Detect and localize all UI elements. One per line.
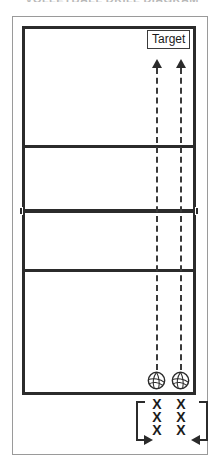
- player-formation: X X X X X X: [136, 401, 208, 447]
- volleyball-icon: [147, 371, 166, 390]
- attack-line-top: [22, 145, 196, 148]
- trajectory-left: [156, 68, 158, 370]
- volleyball-icon: [171, 371, 190, 390]
- target-label: Target: [147, 30, 190, 49]
- queue-left: X X X: [149, 398, 165, 437]
- trajectory-arrowhead-left-icon: [152, 59, 162, 68]
- rotation-path-right: [199, 401, 208, 441]
- diagram-canvas: VOLLEYBALL DRILL DIAGRAM Target X: [0, 0, 224, 464]
- net-line: [20, 209, 198, 213]
- player-mark: X: [149, 424, 165, 437]
- trajectory-right: [180, 68, 182, 370]
- page-header-text: VOLLEYBALL DRILL DIAGRAM: [16, 0, 208, 2]
- player-mark: X: [173, 424, 189, 437]
- net-post-left: [19, 207, 23, 215]
- attack-line-bottom: [22, 269, 196, 272]
- trajectory-arrowhead-right-icon: [176, 59, 186, 68]
- queue-right: X X X: [173, 398, 189, 437]
- rotation-arrow-right-icon: [191, 435, 200, 445]
- net-post-right: [195, 207, 199, 215]
